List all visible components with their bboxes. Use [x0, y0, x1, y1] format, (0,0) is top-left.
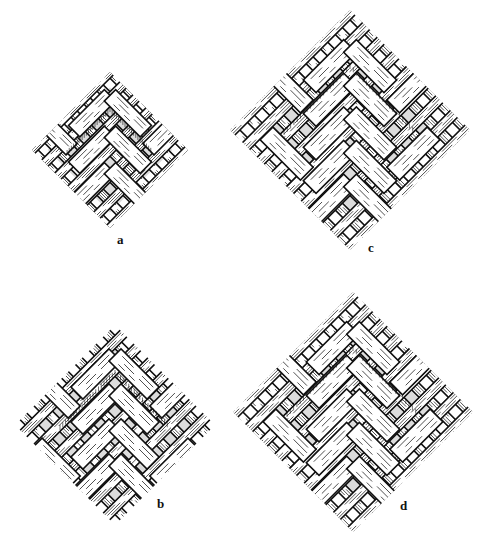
- panel-label-a: a: [117, 232, 124, 248]
- weave-diagram-a: [22, 62, 198, 238]
- panel-label-d: d: [400, 498, 407, 514]
- panel-label-c: c: [368, 240, 374, 256]
- weave-drawing-b: [5, 315, 225, 535]
- weave-diagram-b: [5, 315, 225, 535]
- panel-label-b: b: [157, 496, 164, 512]
- weave-drawing-c: [220, 0, 480, 260]
- weave-drawing-d: [223, 282, 483, 542]
- weave-diagram-c: [220, 0, 480, 260]
- weave-diagram-d: [223, 282, 483, 542]
- weave-drawing-a: [22, 62, 198, 238]
